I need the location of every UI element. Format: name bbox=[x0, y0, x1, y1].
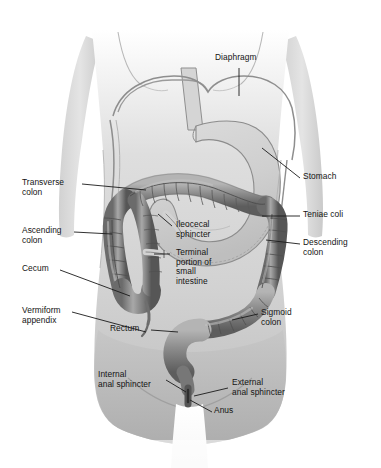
label-cecum: Cecum bbox=[22, 264, 49, 274]
label-transverse-colon: Transverse colon bbox=[22, 178, 64, 197]
label-internal-anal-sphincter: Internal anal sphincter bbox=[98, 370, 151, 389]
label-descending-colon: Descending colon bbox=[303, 238, 348, 257]
label-teniae-coli: Teniae coli bbox=[303, 210, 343, 220]
label-diaphragm: Diaphragm bbox=[215, 53, 256, 63]
label-sigmoid-colon: Sigmoid colon bbox=[261, 308, 292, 327]
label-ascending-colon: Ascending colon bbox=[22, 226, 62, 245]
label-terminal-portion-small-intestine: Terminal portion of small intestine bbox=[176, 248, 211, 286]
label-stomach: Stomach bbox=[303, 172, 336, 182]
label-external-anal-sphincter: External anal sphincter bbox=[232, 378, 285, 397]
label-anus: Anus bbox=[214, 406, 233, 416]
label-vermiform-appendix: Vermiform appendix bbox=[22, 306, 61, 325]
label-rectum: Rectum bbox=[110, 324, 139, 334]
label-ileocecal-sphincter: Ileocecal sphincter bbox=[176, 220, 210, 239]
